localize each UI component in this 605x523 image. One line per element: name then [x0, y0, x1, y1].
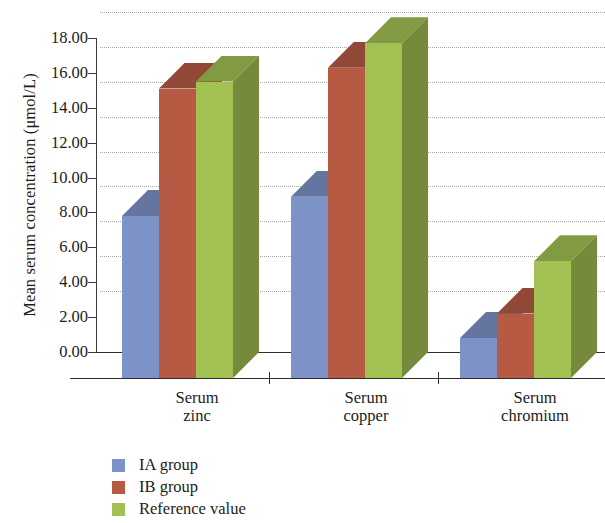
bar-front-face: [196, 82, 233, 378]
legend-label: IA group: [139, 457, 198, 474]
x-axis-tick-mark: [269, 372, 270, 384]
y-axis-tick-label: 14.00: [16, 100, 88, 117]
bar: [196, 56, 233, 378]
bar: [497, 288, 534, 378]
plot-area: Serum zincSerum copperSerum chromium: [96, 0, 605, 400]
legend-item: Reference value: [112, 499, 246, 520]
x-axis-category-label: Serum chromium: [435, 389, 605, 426]
y-axis-tick-label: 16.00: [16, 65, 88, 82]
bar-front-face: [534, 261, 571, 378]
y-axis-tick-label: 2.00: [16, 309, 88, 326]
bar-side-face: [402, 17, 428, 378]
bar-front-face: [497, 314, 534, 378]
bar: [365, 17, 402, 378]
x-axis-line: [70, 378, 605, 379]
legend-label: Reference value: [139, 501, 246, 518]
bar-front-face: [460, 338, 497, 378]
legend-color-swatch: [112, 459, 125, 472]
bar: [328, 42, 365, 378]
bar: [122, 190, 159, 378]
legend-color-swatch: [112, 503, 125, 516]
bar: [291, 171, 328, 378]
y-axis-tick-label: 18.00: [16, 30, 88, 47]
y-axis-tick-label: 12.00: [16, 135, 88, 152]
bar-front-face: [122, 216, 159, 378]
y-axis-tick-label: 8.00: [16, 204, 88, 221]
legend-item: IA group: [112, 455, 246, 476]
y-axis-tick-label: 6.00: [16, 239, 88, 256]
bar-side-face: [233, 56, 259, 378]
legend-item: IB group: [112, 477, 246, 498]
bar: [159, 63, 196, 378]
y-axis-line: [96, 38, 97, 352]
bar: [460, 312, 497, 378]
gridline: [100, 12, 605, 14]
legend-label: IB group: [139, 479, 198, 496]
bar-front-face: [291, 197, 328, 378]
bar-chart: Mean serum concentration (μmol/L) 18.001…: [0, 0, 605, 523]
y-axis-tick-label: 10.00: [16, 170, 88, 187]
y-axis-tick-label: 4.00: [16, 274, 88, 291]
bar-front-face: [159, 89, 196, 378]
bar: [534, 235, 571, 378]
y-axis-tick-label: 0.00: [16, 344, 88, 361]
y-axis-tick-labels: 18.0016.0014.0012.0010.008.006.004.002.0…: [16, 0, 88, 523]
bar-front-face: [328, 68, 365, 378]
legend-color-swatch: [112, 481, 125, 494]
chart-legend: IA groupIB groupReference value: [112, 455, 246, 521]
x-axis-tick-mark: [438, 372, 439, 384]
bar-front-face: [365, 43, 402, 378]
